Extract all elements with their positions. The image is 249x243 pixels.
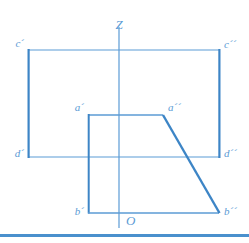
z-axis-label: Z (115, 17, 123, 32)
label-c-prime: c´ (15, 37, 24, 49)
orthographic-projection-diagram: Z O c´ c´´ d´ d´´ a´ a´´ b´ b´´ (0, 0, 249, 243)
bottom-divider-rule (0, 234, 249, 237)
label-a-prime: a´ (75, 101, 85, 113)
label-d-prime: d´ (15, 147, 25, 159)
label-d-double-prime: d´´ (224, 147, 237, 159)
label-b-prime: b´ (75, 205, 85, 217)
origin-label: O (126, 213, 136, 228)
diagonal-line-a-to-b (163, 115, 220, 213)
label-c-double-prime: c´´ (224, 38, 237, 50)
label-a-double-prime: a´´ (168, 101, 181, 113)
label-b-double-prime: b´´ (224, 205, 237, 217)
